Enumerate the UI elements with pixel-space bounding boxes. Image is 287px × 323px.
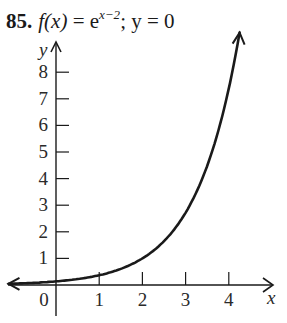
y-tick-label: 6 xyxy=(39,114,49,135)
x-axis-label: x xyxy=(266,287,276,308)
x-tick-label: 0 xyxy=(39,289,49,310)
y-tick-label: 4 xyxy=(39,168,49,189)
tick-labels: 0123412345678xy xyxy=(37,39,276,310)
y-tick-label: 3 xyxy=(39,194,49,215)
y-tick-label: 8 xyxy=(39,61,49,82)
x-tick-label: 3 xyxy=(181,289,191,310)
y-tick-label: 2 xyxy=(39,221,49,242)
graph: 0123412345678xy xyxy=(0,0,287,323)
y-tick-label: 5 xyxy=(39,141,49,162)
x-tick-label: 1 xyxy=(94,289,104,310)
y-axis-label: y xyxy=(37,39,48,60)
y-tick-label: 1 xyxy=(39,247,49,268)
x-tick-label: 2 xyxy=(138,289,148,310)
x-tick-label: 4 xyxy=(224,289,234,310)
y-tick-label: 7 xyxy=(39,88,49,109)
